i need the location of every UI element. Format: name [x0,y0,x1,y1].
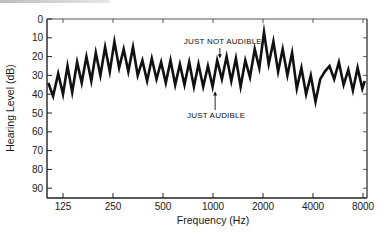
arrow-up-icon [213,92,217,96]
y-tick-label: 10 [32,32,44,43]
y-tick-label: 30 [32,70,44,81]
x-axis-label: Frequency (Hz) [177,214,249,226]
x-tick-label: 250 [105,201,122,212]
y-tick-label: 40 [32,89,44,100]
x-tick-label: 1000 [202,201,225,212]
arrow-down-icon [218,54,222,58]
y-tick-label: 20 [32,51,44,62]
annotation-just-not-audible: JUST NOT AUDIBLE [184,37,262,46]
y-tick-label: 60 [32,126,44,137]
audiogram-chart: 0102030405060708090 12525050010002000400… [0,0,388,235]
x-tick-label: 500 [155,201,172,212]
annotation-just-audible: JUST AUDIBLE [187,111,245,120]
y-tick-label: 70 [32,145,44,156]
x-tick-label: 4000 [302,201,325,212]
y-axis-label: Hearing Level (dB) [4,64,16,152]
y-tick-label: 50 [32,108,44,119]
x-tick-label: 2000 [252,201,275,212]
x-tick-label: 8000 [352,201,375,212]
y-tick-label: 90 [32,183,44,194]
y-tick-label: 80 [32,164,44,175]
x-tick-label: 125 [55,201,72,212]
y-tick-label: 0 [37,14,43,25]
